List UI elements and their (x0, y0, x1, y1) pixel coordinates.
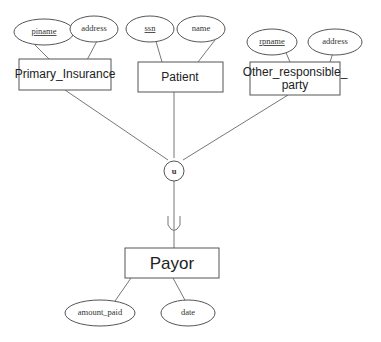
entity-primary-insurance: Primary_Insurance (15, 59, 116, 90)
svg-text:u: u (172, 166, 177, 176)
entity-patient: Patient (138, 62, 223, 92)
svg-text:name: name (192, 23, 211, 33)
attribute-name: name (177, 16, 225, 42)
attribute-pi-address: address (70, 16, 118, 42)
attribute-date: date (161, 300, 215, 326)
er-diagram: piname address ssn name rpname address a… (0, 0, 381, 342)
svg-text:ssn: ssn (145, 23, 157, 33)
svg-text:address: address (322, 36, 348, 46)
attribute-rpname: rpname (247, 29, 297, 55)
svg-text:Patient: Patient (161, 70, 199, 84)
svg-text:piname: piname (31, 26, 56, 36)
attribute-ssn: ssn (126, 16, 174, 42)
svg-text:address: address (81, 23, 107, 33)
svg-text:Payor: Payor (150, 254, 195, 273)
svg-text:Primary_Insurance: Primary_Insurance (15, 67, 116, 81)
entity-payor: Payor (125, 248, 219, 278)
union-circle: u (164, 161, 184, 181)
entity-other-responsible-party: Other_responsible_ party (243, 62, 348, 95)
svg-text:date: date (181, 307, 195, 317)
svg-text:amount_paid: amount_paid (78, 307, 123, 317)
attribute-amount-paid: amount_paid (65, 300, 135, 326)
svg-text:rpname: rpname (259, 36, 285, 46)
diagram-canvas: piname address ssn name rpname address a… (0, 0, 381, 342)
attribute-rp-address: address (308, 29, 362, 55)
svg-text:Other_responsible_: Other_responsible_ (243, 65, 348, 79)
svg-text:party: party (282, 78, 309, 92)
attribute-piname: piname (14, 19, 74, 45)
